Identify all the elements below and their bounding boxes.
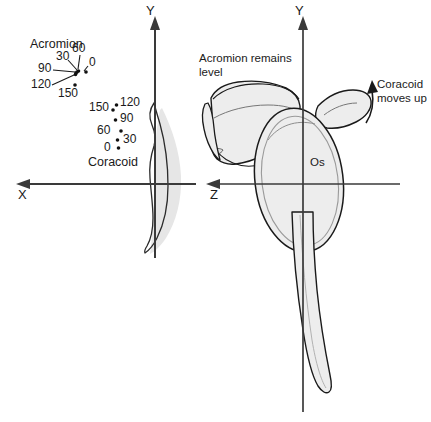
coracoid-angle-90: 90	[120, 112, 133, 126]
coracoid-process	[316, 90, 372, 128]
acromion-angle-90: 90	[38, 62, 51, 76]
left-axis-x-label: X	[18, 188, 27, 203]
right-axis-z-label: Z	[210, 188, 218, 203]
coracoid-angle-120: 120	[120, 96, 140, 110]
coracoid-angle-0: 0	[104, 141, 111, 155]
left-axis-y-label: Y	[146, 4, 155, 19]
origin-os-label: Os	[310, 156, 325, 169]
coracoid-moves-up-annotation-line1: Coracoid	[377, 78, 423, 91]
coracoid-angle-30: 30	[123, 133, 136, 147]
acromion-angle-0: 0	[89, 56, 96, 70]
acromion-angle-120: 120	[31, 78, 51, 92]
acromion-angle-30: 30	[56, 50, 69, 64]
acromion-markers	[73, 69, 88, 87]
acromion-angle-60: 60	[72, 42, 85, 56]
coracoid-angle-150: 150	[89, 101, 109, 115]
acromion-angle-150: 150	[58, 87, 78, 101]
right-axis-y-label: Y	[295, 4, 304, 19]
coracoid-moves-up-annotation-line2: moves up	[377, 92, 427, 105]
coracoid-angle-60: 60	[97, 124, 110, 138]
acromion-remains-level-annotation-line2: level	[199, 66, 223, 79]
acromion-remains-level-annotation-line1: Acromion remains	[199, 52, 292, 65]
coracoid-caption: Coracoid	[88, 155, 138, 169]
